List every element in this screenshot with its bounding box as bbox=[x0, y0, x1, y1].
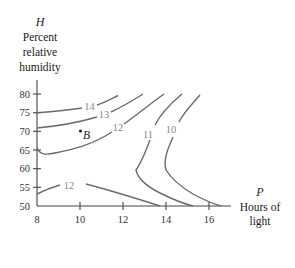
y-tick-50: 50 bbox=[20, 201, 31, 212]
contour-11-top bbox=[155, 94, 182, 125]
contour-11-bottom bbox=[136, 140, 193, 206]
contour-12-lower-left bbox=[37, 185, 60, 194]
contour-label-14: 14 bbox=[84, 101, 95, 112]
y-tick-65: 65 bbox=[20, 145, 31, 156]
contour-chart: H Percent relative humidity 80 75 70 65 … bbox=[0, 0, 295, 268]
point-b-marker bbox=[79, 129, 82, 132]
y-axis-title-line1: Percent bbox=[23, 31, 58, 43]
y-tick-55: 55 bbox=[20, 182, 31, 193]
y-axis-title-line3: humidity bbox=[19, 61, 61, 74]
x-tick-12: 12 bbox=[118, 214, 129, 225]
y-tick-80: 80 bbox=[20, 89, 31, 100]
x-axis-title-line2: light bbox=[249, 215, 271, 228]
contour-label-12-lower: 12 bbox=[64, 180, 75, 191]
y-tick-60: 60 bbox=[20, 163, 31, 174]
x-tick-8: 8 bbox=[34, 214, 39, 225]
contour-10-top bbox=[179, 95, 200, 122]
x-axis-variable: P bbox=[255, 185, 264, 199]
contour-13-left bbox=[37, 117, 97, 128]
x-tick-16: 16 bbox=[204, 214, 215, 225]
point-b-label: B bbox=[83, 129, 90, 141]
y-tick-75: 75 bbox=[20, 107, 31, 118]
contour-12-upper-left bbox=[37, 132, 112, 154]
contour-14-right bbox=[97, 96, 118, 106]
x-tick-14: 14 bbox=[161, 214, 172, 225]
contour-10-bottom bbox=[165, 137, 221, 206]
contour-label-11: 11 bbox=[143, 129, 153, 140]
y-axis-variable: H bbox=[35, 15, 46, 29]
contour-label-10: 10 bbox=[166, 124, 177, 135]
contour-label-12-upper: 12 bbox=[113, 122, 124, 133]
x-tick-10: 10 bbox=[75, 214, 86, 225]
x-axis-title-line1: Hours of bbox=[240, 201, 281, 213]
y-axis-title-line2: relative bbox=[23, 46, 57, 58]
contour-14-left bbox=[37, 108, 82, 113]
contour-label-13: 13 bbox=[99, 109, 110, 120]
y-tick-70: 70 bbox=[20, 126, 31, 137]
